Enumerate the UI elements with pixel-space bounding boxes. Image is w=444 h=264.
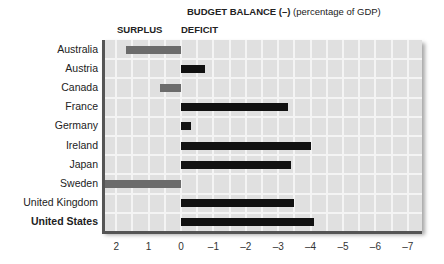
grid-line [102, 173, 422, 175]
x-tick-label: –2 [236, 241, 256, 252]
chart-title: BUDGET BALANCE (–) (percentage of GDP) [187, 6, 381, 17]
grid-line [102, 116, 422, 118]
category-label: Austria [65, 62, 98, 74]
category-label: Sweden [60, 177, 98, 189]
y-axis-line [102, 40, 105, 234]
category-label: Ireland [66, 139, 98, 151]
x-tick-label: 1 [139, 241, 159, 252]
plot-area [102, 40, 422, 232]
x-tick-label: –3 [268, 241, 288, 252]
category-label: Germany [55, 119, 98, 131]
surplus-header: SURPLUS [117, 24, 162, 35]
bar-ireland [181, 142, 311, 150]
category-label: Japan [69, 158, 98, 170]
grid-line [102, 58, 422, 60]
bar-austria [181, 65, 205, 73]
x-tick-label: –6 [365, 241, 385, 252]
bar-australia [126, 46, 181, 54]
category-label: United Kingdom [23, 196, 98, 208]
bar-germany [181, 122, 191, 130]
grid-line [102, 77, 422, 79]
x-axis-line [102, 231, 422, 234]
bar-united-kingdom [181, 199, 294, 207]
x-tick-label: –4 [301, 241, 321, 252]
deficit-header: DEFICIT [181, 24, 218, 35]
grid-line [102, 154, 422, 156]
bar-united-states [181, 218, 314, 226]
grid-line [102, 212, 422, 214]
bar-france [181, 103, 288, 111]
category-label: France [65, 100, 98, 112]
x-tick-label: 0 [171, 241, 191, 252]
bar-canada [160, 84, 181, 92]
bar-sweden [104, 180, 181, 188]
grid-line [102, 97, 422, 99]
x-tick-label: –5 [333, 241, 353, 252]
grid-line [102, 135, 422, 137]
category-label: Canada [61, 81, 98, 93]
grid-line [102, 193, 422, 195]
category-label: United States [31, 215, 98, 227]
x-tick-label: –1 [203, 241, 223, 252]
x-tick-label: –7 [398, 241, 418, 252]
category-label: Australia [57, 43, 98, 55]
x-tick-label: 2 [106, 241, 126, 252]
bar-japan [181, 161, 291, 169]
